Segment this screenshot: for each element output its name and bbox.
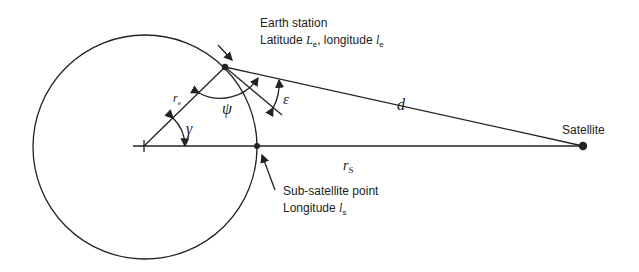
earth-station-pointer-arrow [218, 45, 232, 60]
elevation-angle-arc [273, 80, 279, 108]
psi-symbol: ψ [222, 100, 233, 118]
satellite-label: Satellite [562, 123, 605, 137]
sub-satellite-longitude-label: Longitude ls [283, 201, 346, 217]
satellite-point [579, 142, 587, 150]
elevation-symbol: ε [283, 91, 289, 107]
range-symbol: d [397, 96, 406, 113]
sub-satellite-point [254, 143, 260, 149]
gamma-symbol: γ [186, 120, 193, 138]
earth-radius-line [144, 67, 225, 146]
psi-angle-arc [199, 78, 258, 98]
earth-radius-symbol: re [173, 91, 181, 107]
satellite-radius-symbol: rS [343, 158, 353, 175]
sub-satellite-label: Sub-satellite point [283, 184, 379, 198]
earth-station-coords-label: Latitude Le, longitude le [260, 33, 384, 49]
earth-satellite-geometry-diagram: Earth station Latitude Le, longitude le … [0, 0, 639, 272]
earth-station-label: Earth station [260, 16, 327, 30]
gamma-angle-arc [173, 118, 185, 146]
earth-station-point [222, 64, 228, 70]
sub-satellite-pointer-arrow [262, 155, 275, 190]
